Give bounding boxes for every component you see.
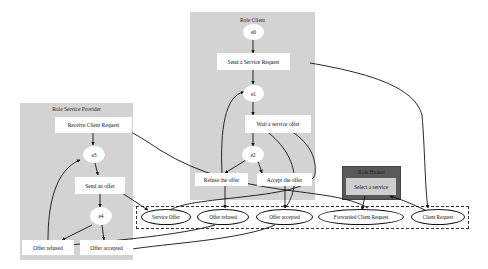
state-e1: e1	[243, 85, 264, 102]
cluster-title-provider: Role Service Provider	[20, 106, 133, 112]
message-offer-accepted: Offer accepted	[256, 209, 313, 225]
action-accept-offer: Accept the offer	[257, 173, 312, 186]
action-send-service-request: Send a Service Request	[217, 53, 290, 70]
state-e2: e2	[242, 146, 264, 163]
action-offer-accepted: Offer accepted	[80, 240, 133, 255]
message-service-offer: Service Offer	[141, 209, 191, 225]
action-receive-client-request: Receive Client Request	[55, 117, 132, 133]
cluster-title-client: Role Client	[190, 17, 315, 23]
action-offer-refused: Offer refused	[22, 240, 74, 255]
action-wait-service-offer: Wait a service offer	[245, 115, 311, 133]
message-offer-refused: Offer refused	[197, 209, 249, 225]
state-e3: e3	[83, 146, 105, 163]
message-forwarded-client-request: Forwarded Client Request	[318, 209, 404, 225]
cluster-role-client: Role Client	[190, 12, 315, 200]
action-refuse-offer: Refuse the offer	[195, 173, 248, 186]
cluster-title-broker: Role Broker	[343, 169, 400, 175]
action-select-service: Select a service	[346, 178, 396, 195]
message-client-request: Client Request	[411, 209, 465, 225]
state-e0: e0	[243, 24, 264, 40]
action-send-offer: Send an offer	[75, 177, 125, 194]
state-e4: e4	[90, 207, 112, 225]
